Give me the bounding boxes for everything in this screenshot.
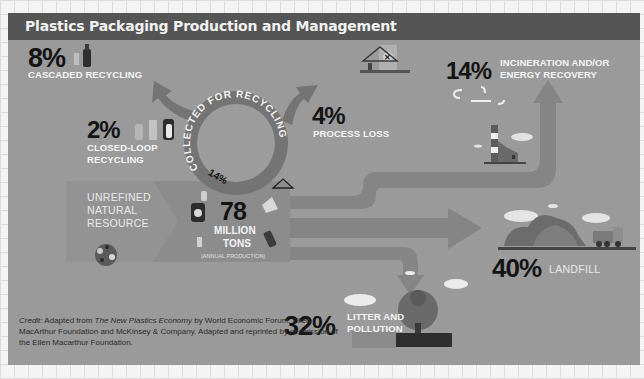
recycling-ring: COLLECTED FOR RECYCLING [152, 81, 318, 195]
header-bar: Plastics Packaging Production and Manage… [8, 13, 640, 40]
credit-text: Credit: Adapted from The New Plastics Ec… [19, 315, 349, 348]
source-line-3: RESOURCE [87, 217, 149, 230]
landfill-percent: 40% [492, 253, 541, 284]
closed-loop-label-1: CLOSED-LOOP [87, 142, 158, 154]
svg-text:✕: ✕ [384, 53, 391, 62]
production-value: 78 [220, 197, 246, 226]
incineration-label-1: INCINERATION AND/OR [500, 57, 610, 69]
flow-band-landfill [290, 208, 482, 249]
credit-book-title: The New Plastics Economy [95, 316, 192, 325]
source-line-2: NATURAL [87, 204, 137, 217]
source-line-1: UNREFINED [87, 191, 151, 204]
closed-loop-label-2: RECYCLING [87, 154, 144, 166]
litter-label-1: LITTER AND [347, 311, 404, 323]
flow-band-incineration [290, 80, 563, 209]
closed-loop-percent: 2% [87, 116, 120, 144]
litter-label-2: POLLUTION [347, 323, 403, 335]
factory-icon [454, 87, 533, 164]
landfill-icon [498, 204, 636, 250]
process-loss-percent: 4% [312, 102, 345, 130]
process-loss-icon: ✕ [360, 45, 410, 73]
landfill-label: LANDFILL [549, 263, 600, 276]
production-unit-2: TONS [223, 238, 251, 250]
production-unit-1: MILLION [214, 225, 256, 237]
incineration-label-2: ENERGY RECOVERY [500, 69, 597, 81]
cascaded-label: CASCADED RECYCLING [28, 69, 142, 81]
bottles-icon [135, 119, 174, 140]
process-loss-label: PROCESS LOSS [313, 128, 389, 140]
incineration-percent: 14% [446, 57, 491, 85]
credit-text-1: Adapted from [43, 316, 95, 325]
bottle-icon [74, 44, 91, 67]
flow-band-litter [290, 247, 424, 295]
production-note: (ANNUAL PRODUCTION) [201, 253, 265, 259]
page-title: Plastics Packaging Production and Manage… [25, 18, 397, 34]
credit-prefix: Credit: [19, 316, 43, 325]
pellets-icon [95, 244, 117, 266]
infographic-panel: COLLECTED FOR RECYCLING ✕ [8, 13, 640, 365]
